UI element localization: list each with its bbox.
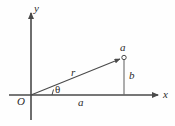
origin-label: O [17,96,25,107]
angle-theta-label: θ [55,84,60,95]
point-label: a [120,42,126,53]
angle-arc [52,90,54,96]
adjacent-side-label: a [78,97,84,108]
radius-ray [31,59,120,95]
coordinate-diagram: y x O r θ a b a [0,0,175,126]
diagram-canvas [0,0,175,126]
radius-label: r [71,67,75,78]
y-axis-label: y [34,3,39,14]
point-marker [122,55,126,59]
x-axis-label: x [163,89,168,100]
opposite-side-label: b [129,70,135,81]
